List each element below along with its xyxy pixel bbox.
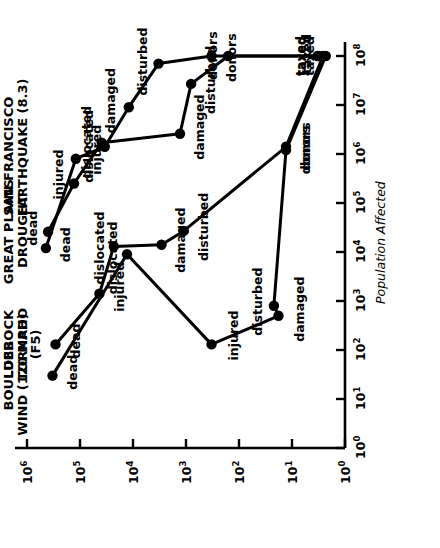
data-point [47,370,57,380]
data-point [281,142,291,152]
data-point [273,311,283,321]
series-title-3: SAN FRANCISCOEARTHQUAKE (8.3) [2,96,29,216]
y-tick-label: 106 [20,461,35,484]
y-tick-label: 104 [126,461,141,484]
point-label-dead: dead [60,227,73,262]
point-label-taxed: taxed [296,36,309,76]
series-title-1: LUBBOCKTORNADO(F5) [2,284,43,404]
data-point [69,178,79,188]
x-tick-label: 107 [353,93,368,116]
point-label-donors: donors [300,122,313,171]
data-point [269,301,279,311]
point-label-disturbed: disturbed [198,193,211,261]
y-tick-label: 103 [179,461,194,484]
point-label-dead: dead [70,324,83,359]
x-tick-label: 101 [353,387,368,410]
point-label-damaged: damaged [294,277,307,342]
point-label-dislocated: dislocated [94,212,107,285]
point-label-dislocated: dislocated [83,110,96,183]
y-tick-label: 102 [232,461,247,484]
point-label-damaged: damaged [175,208,188,273]
data-point [186,79,196,89]
point-label-disturbed: disturbed [252,268,265,336]
x-tick-label: 100 [353,436,368,459]
y-tick-label: 101 [285,461,300,484]
chart-figure: 1001011021031041051061071081001011021031… [0,0,440,548]
x-tick-label: 102 [353,338,368,361]
point-label-injured: injured [53,150,66,200]
point-label-damaged: damaged [105,68,118,133]
y-tick-label: 105 [73,461,88,484]
data-point [175,129,185,139]
data-point [156,240,166,250]
point-label-disturbed: disturbed [137,28,150,96]
x-tick-label: 105 [353,191,368,214]
point-label-dead: dead [67,355,80,390]
x-tick-label: 106 [353,142,368,165]
data-point [153,58,163,68]
point-label-donors: donors [226,33,239,82]
y-tick-label: 100 [338,461,353,484]
data-point [94,289,104,299]
point-label-injured: injured [228,310,241,360]
point-label-donors: donors [207,31,220,80]
data-point [50,339,60,349]
x-tick-label: 104 [353,240,368,263]
data-point [124,102,134,112]
data-point [41,243,51,253]
data-point [122,249,132,259]
chart-rotated-canvas: 1001011021031041051061071081001011021031… [0,0,440,548]
x-axis-title: Population Affected [375,181,388,304]
point-label-injured: injured [114,262,127,312]
data-point [206,339,216,349]
x-tick-label: 103 [353,289,368,312]
x-tick-label: 108 [353,44,368,67]
chart-plot-area: 1001011021031041051061071081001011021031… [0,0,440,548]
